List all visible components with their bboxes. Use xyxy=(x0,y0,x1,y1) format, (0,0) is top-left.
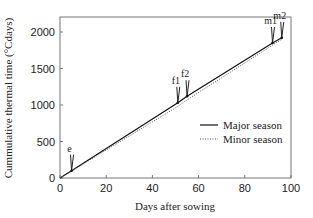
svg-text:0: 0 xyxy=(57,182,63,194)
svg-text:20: 20 xyxy=(100,182,112,194)
y-axis-label: Cummulative thermal time (°Cdays) xyxy=(2,17,15,178)
svg-text:m2: m2 xyxy=(273,10,286,21)
svg-text:2000: 2000 xyxy=(31,26,55,38)
svg-text:0: 0 xyxy=(49,172,55,184)
legend-major-label: Major season xyxy=(223,119,282,131)
svg-text:100: 100 xyxy=(282,182,300,194)
svg-text:60: 60 xyxy=(192,182,204,194)
svg-text:40: 40 xyxy=(146,182,158,194)
y-axis: 0500100015002000 xyxy=(31,26,63,184)
stage-annotations: ef1f2m1m2 xyxy=(67,10,286,172)
svg-text:f2: f2 xyxy=(181,68,189,79)
legend: Major season Minor season xyxy=(200,119,283,145)
svg-text:e: e xyxy=(67,143,72,154)
x-axis-label: Days after sowing xyxy=(135,200,216,212)
svg-text:f1: f1 xyxy=(172,75,180,86)
svg-text:1000: 1000 xyxy=(31,99,55,111)
svg-text:1500: 1500 xyxy=(31,63,55,75)
legend-minor-label: Minor season xyxy=(223,133,283,145)
svg-text:80: 80 xyxy=(239,182,251,194)
svg-text:500: 500 xyxy=(37,136,55,148)
plot-frame xyxy=(60,17,291,178)
series-lines xyxy=(60,38,282,178)
chart: 020406080100 0500100015002000 Days after… xyxy=(0,0,313,218)
